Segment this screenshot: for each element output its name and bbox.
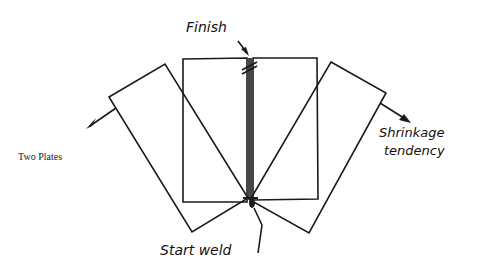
start-weld-label: Start weld [160, 242, 232, 258]
left-shrinkage-arrow [90, 108, 116, 126]
welding-shrinkage-diagram: Finish Shrinkage tendency Start weld Two… [0, 0, 480, 269]
shrinkage-label-line2: tendency [384, 143, 445, 158]
start-weld-leader [254, 208, 262, 253]
shrinkage-label-line1: Shrinkage [379, 125, 444, 140]
left-plate-distorted [109, 64, 248, 232]
caption: Two Plates [18, 151, 62, 162]
finish-label: Finish [186, 19, 227, 35]
